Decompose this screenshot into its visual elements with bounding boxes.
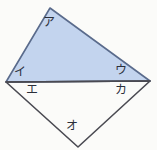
geometry-figure: ア イ ウ エ カ オ — [0, 0, 157, 150]
label-e: エ — [26, 84, 38, 96]
label-a: ア — [43, 16, 55, 28]
label-u: ウ — [115, 64, 127, 76]
label-ka: カ — [115, 84, 127, 96]
diagonal-line-segment — [6, 81, 150, 82]
shaded-triangle — [6, 8, 150, 82]
label-o: オ — [66, 120, 78, 132]
label-i: イ — [14, 66, 26, 78]
